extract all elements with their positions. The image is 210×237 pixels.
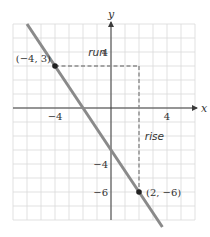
y-tick-label: −6 — [93, 187, 108, 198]
x-axis-label: x — [201, 102, 208, 115]
data-point — [52, 63, 58, 69]
data-point — [136, 189, 142, 195]
annotations: runrise — [55, 46, 164, 192]
points: (−4, 3)(2, −6) — [16, 53, 182, 198]
run-label: run — [88, 46, 106, 58]
rise-label: rise — [145, 130, 164, 142]
x-tick-label: −4 — [48, 111, 63, 122]
tick-labels: −444−4−6 — [48, 47, 171, 198]
point-label: (2, −6) — [146, 187, 181, 198]
x-tick-label: 4 — [164, 111, 170, 122]
y-tick-label: −4 — [93, 159, 108, 170]
point-label: (−4, 3) — [16, 53, 51, 64]
line-chart: x y −444−4−6 runrise (−4, 3)(2, −6) — [0, 0, 210, 237]
y-axis-label: y — [107, 8, 115, 21]
